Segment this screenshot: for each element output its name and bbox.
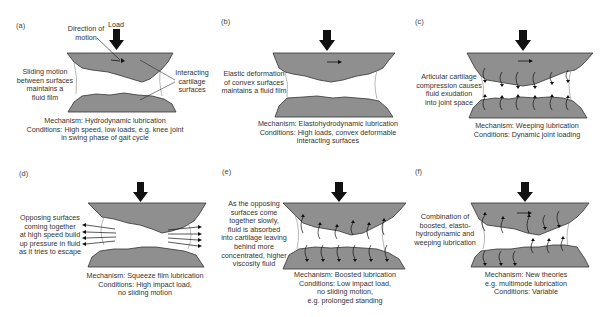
upper-cartilage [471, 203, 589, 235]
left-annotation: Elastic deformation of convex surfaces m… [217, 70, 291, 96]
left-annotation: Combination of boosted, elasto- hydrodyn… [411, 213, 479, 247]
panel-a: (a) Load Direction of motion Sliding mot… [0, 0, 204, 158]
lower-cartilage [471, 245, 589, 267]
left-annotation: As the opposing surfaces come together s… [215, 200, 293, 269]
upper-cartilage [88, 203, 206, 233]
load-arrow-icon [517, 182, 533, 202]
upper-cartilage [283, 203, 406, 235]
load-arrow-icon [319, 30, 335, 51]
lower-cartilage [88, 247, 204, 267]
panel-f: (f) Combination of boosted, elasto- hydr… [405, 155, 609, 313]
left-annotation: Articular cartilage compression causes f… [413, 73, 485, 107]
load-arrow-icon [515, 30, 531, 51]
left-annotation: Sliding motion between surfaces maintain… [14, 68, 76, 102]
lower-cartilage [469, 97, 587, 118]
load-arrow-icon [133, 182, 148, 202]
panel-caption: Mechanism: New theories e.g. multimode l… [471, 271, 581, 297]
load-arrow-icon [109, 29, 124, 50]
load-arrow-icon [331, 182, 347, 202]
panel-caption: Mechanism: Squeeze film lubrication Cond… [80, 272, 210, 298]
panel-d: (d) Opposing surfaces coming together at… [0, 155, 204, 313]
panel-b: (b) Elastic deformation of convex surfac… [203, 0, 407, 158]
panel-c: (c) Articular cartilage compression caus… [405, 0, 609, 158]
left-annotation: Opposing surfaces coming together at hig… [16, 214, 84, 257]
upper-cartilage [67, 53, 173, 82]
upper-cartilage [273, 53, 395, 82]
panel-caption: Mechanism: Hydrodynamic lubrication Cond… [20, 117, 190, 143]
panel-caption: Mechanism: Boosted lubrication Condition… [285, 271, 405, 305]
panel-caption: Mechanism: Weeping lubrication Condition… [467, 122, 587, 139]
lower-cartilage [275, 96, 393, 117]
panel-e: (e) As the opposing surfaces come togeth… [203, 155, 407, 313]
lower-cartilage [68, 93, 176, 112]
panel-caption: Mechanism: Elastohydrodynamic lubricatio… [253, 120, 403, 146]
